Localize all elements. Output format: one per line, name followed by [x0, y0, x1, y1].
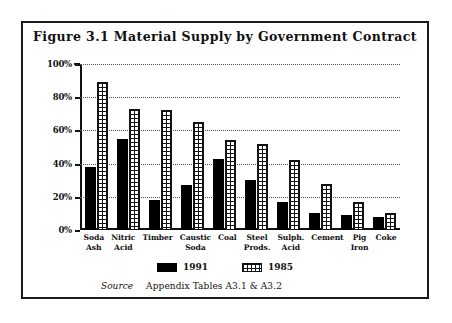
y-axis-label: 40%: [53, 159, 72, 169]
y-axis-label: 0%: [58, 225, 72, 235]
bar-1985: [385, 213, 396, 230]
category-label: Coke: [376, 233, 397, 252]
bar-1991: [85, 167, 96, 230]
legend-label-1985: 1985: [268, 262, 293, 272]
category-label: Caustic Soda: [180, 233, 211, 252]
category-label: Pig Iron: [351, 233, 369, 252]
y-axis-label: 80%: [53, 92, 72, 102]
source-text: Appendix Tables A3.1 & A3.2: [146, 281, 282, 291]
bar-1991: [245, 180, 256, 230]
bar-1991: [373, 217, 384, 230]
category-label: Timber: [143, 233, 173, 252]
legend-swatch-1991: [157, 263, 177, 272]
bar-groups: [80, 64, 400, 230]
x-axis-category-labels: Soda AshNitric AcidTimberCaustic SodaCoa…: [80, 233, 400, 252]
bar-1985: [257, 144, 268, 230]
bar-1991: [117, 139, 128, 230]
bar-1985: [129, 109, 140, 230]
source-note: Source Appendix Tables A3.1 & A3.2: [101, 281, 282, 291]
chart-legend: 19911985: [23, 262, 427, 272]
bar-group: [373, 64, 396, 230]
bar-group: [85, 64, 108, 230]
bar-1985: [289, 160, 300, 230]
legend-label-1991: 1991: [183, 262, 208, 272]
category-label: Cement: [311, 233, 343, 252]
bar-1985: [321, 184, 332, 230]
bar-1991: [309, 213, 320, 230]
y-axis-label: 100%: [47, 59, 72, 69]
bar-1991: [149, 200, 160, 230]
category-label: Soda Ash: [84, 233, 104, 252]
category-label: Steel Prods.: [244, 233, 270, 252]
y-axis-label: 60%: [53, 125, 72, 135]
bar-1991: [341, 215, 352, 230]
category-label: Coal: [218, 233, 237, 252]
bar-1985: [161, 110, 172, 230]
bar-group: [309, 64, 332, 230]
figure-frame: Figure 3.1 Material Supply by Government…: [21, 21, 429, 299]
bar-group: [181, 64, 204, 230]
bar-group: [277, 64, 300, 230]
bar-group: [341, 64, 364, 230]
category-label: Nitric Acid: [111, 233, 135, 252]
bar-group: [149, 64, 172, 230]
legend-item: 1985: [242, 262, 293, 272]
y-axis-label: 20%: [53, 192, 72, 202]
category-label: Sulph. Acid: [277, 233, 304, 252]
bar-1985: [225, 140, 236, 230]
bar-group: [213, 64, 236, 230]
y-tick-mark: [75, 230, 80, 232]
bar-1985: [353, 202, 364, 230]
legend-item: 1991: [157, 262, 208, 272]
bar-1991: [277, 202, 288, 230]
legend-swatch-1985: [242, 263, 262, 272]
bar-1991: [181, 185, 192, 230]
bar-1991: [213, 159, 224, 230]
plot-wrapper: 0%20%40%60%80%100%: [80, 64, 400, 230]
bar-group: [117, 64, 140, 230]
bar-1985: [193, 122, 204, 230]
bar-group: [245, 64, 268, 230]
bar-1985: [97, 82, 108, 230]
source-label: Source: [101, 281, 133, 291]
chart-title: Figure 3.1 Material Supply by Government…: [23, 29, 427, 44]
